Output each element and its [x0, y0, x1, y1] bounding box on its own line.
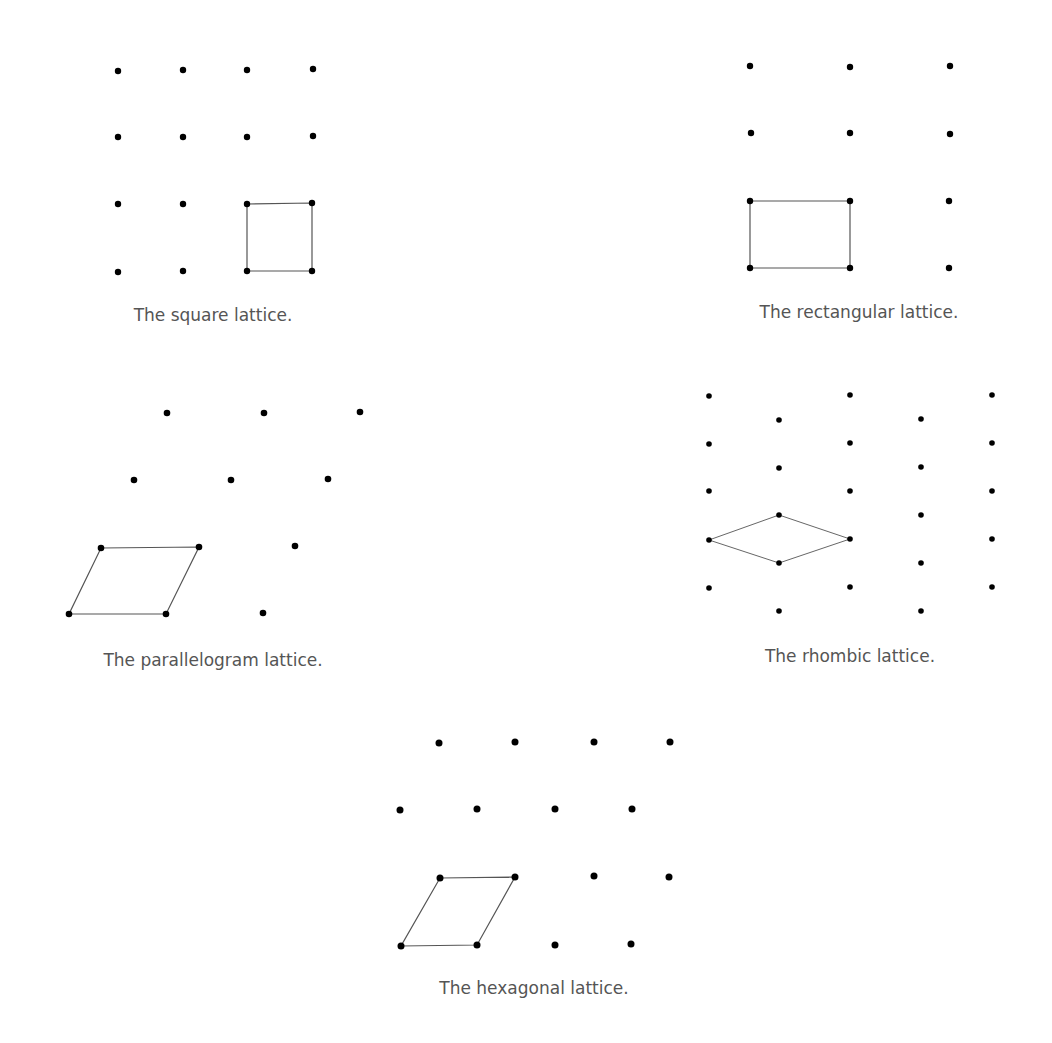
- lattice-point: [244, 134, 250, 140]
- square-lattice-caption: The square lattice.: [134, 305, 293, 325]
- lattice-point: [591, 873, 598, 880]
- lattice-figure: [0, 0, 1052, 1043]
- lattice-point: [196, 544, 203, 551]
- lattice-point: [776, 465, 782, 471]
- lattice-point: [244, 268, 250, 274]
- lattice-point: [98, 545, 105, 552]
- lattice-point: [66, 611, 73, 618]
- lattice-point: [918, 464, 924, 470]
- lattice-point: [115, 269, 121, 275]
- lattice-point: [357, 409, 364, 416]
- lattice-point: [918, 560, 924, 566]
- lattice-point: [989, 440, 995, 446]
- lattice-point: [180, 201, 186, 207]
- lattice-point: [292, 543, 299, 550]
- lattice-point: [847, 440, 853, 446]
- lattice-point: [918, 608, 924, 614]
- lattice-point: [847, 265, 853, 271]
- lattice-point: [398, 943, 405, 950]
- lattice-point: [397, 807, 404, 814]
- square-unit-cell: [247, 203, 312, 271]
- square-lattice: [115, 66, 316, 275]
- lattice-point: [706, 488, 712, 494]
- lattice-point: [748, 130, 754, 136]
- lattice-point: [244, 201, 250, 207]
- lattice-point: [591, 739, 598, 746]
- lattice-point: [847, 64, 853, 70]
- lattice-point: [918, 416, 924, 422]
- lattice-point: [244, 67, 250, 73]
- rectangular-lattice: [747, 63, 953, 271]
- lattice-point: [747, 265, 753, 271]
- lattice-point: [437, 875, 444, 882]
- parallelogram-lattice: [66, 409, 364, 618]
- lattice-point: [115, 201, 121, 207]
- lattice-point: [989, 488, 995, 494]
- lattice-point: [310, 133, 316, 139]
- lattice-point: [776, 560, 782, 566]
- lattice-point: [180, 134, 186, 140]
- lattice-point: [947, 131, 953, 137]
- lattice-point: [847, 584, 853, 590]
- lattice-point: [847, 488, 853, 494]
- lattice-point: [629, 806, 636, 813]
- lattice-point: [552, 806, 559, 813]
- lattice-point: [115, 134, 121, 140]
- lattice-point: [474, 942, 481, 949]
- lattice-point: [747, 198, 753, 204]
- parallelogram-lattice-caption: The parallelogram lattice.: [103, 650, 322, 670]
- lattice-point: [776, 417, 782, 423]
- lattice-point: [512, 739, 519, 746]
- lattice-point: [115, 68, 121, 74]
- lattice-point: [776, 512, 782, 518]
- lattice-point: [706, 537, 712, 543]
- lattice-point: [706, 393, 712, 399]
- lattice-point: [847, 536, 853, 542]
- lattice-point: [260, 610, 267, 617]
- lattice-point: [436, 740, 443, 747]
- lattice-point: [261, 410, 268, 417]
- lattice-point: [310, 66, 316, 72]
- lattice-point: [512, 874, 519, 881]
- lattice-point: [325, 476, 332, 483]
- lattice-point: [163, 611, 170, 618]
- parallelogram-unit-cell: [69, 547, 199, 614]
- hexagonal-unit-cell: [401, 877, 515, 946]
- lattice-point: [918, 512, 924, 518]
- lattice-point: [552, 942, 559, 949]
- rhombic-unit-cell: [709, 515, 850, 563]
- rhombic-lattice: [706, 392, 995, 614]
- lattice-point: [946, 198, 952, 204]
- lattice-point: [776, 608, 782, 614]
- lattice-point: [180, 268, 186, 274]
- lattice-point: [946, 265, 952, 271]
- lattice-point: [706, 441, 712, 447]
- lattice-point: [847, 392, 853, 398]
- lattice-point: [164, 410, 171, 417]
- lattice-point: [667, 739, 674, 746]
- lattice-point: [706, 585, 712, 591]
- lattice-point: [747, 63, 753, 69]
- lattice-point: [989, 584, 995, 590]
- rectangular-unit-cell: [750, 201, 850, 268]
- rhombic-lattice-caption: The rhombic lattice.: [765, 646, 935, 666]
- lattice-point: [666, 874, 673, 881]
- lattice-point: [474, 806, 481, 813]
- lattice-point: [228, 477, 235, 484]
- lattice-point: [180, 67, 186, 73]
- rectangular-lattice-caption: The rectangular lattice.: [760, 302, 959, 322]
- lattice-point: [847, 130, 853, 136]
- lattice-point: [628, 941, 635, 948]
- lattice-point: [989, 392, 995, 398]
- hexagonal-lattice-caption: The hexagonal lattice.: [439, 978, 628, 998]
- lattice-point: [131, 477, 138, 484]
- lattice-point: [847, 198, 853, 204]
- lattice-point: [989, 536, 995, 542]
- hexagonal-lattice: [397, 739, 674, 950]
- lattice-point: [947, 63, 953, 69]
- lattice-point: [309, 200, 315, 206]
- lattice-point: [309, 268, 315, 274]
